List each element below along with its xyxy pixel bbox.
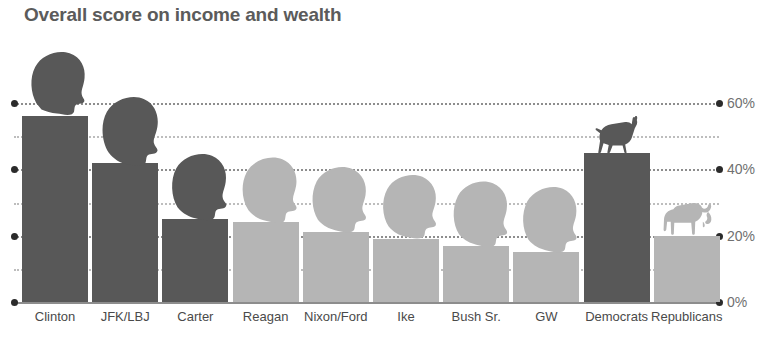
bar-democrats[interactable] — [584, 153, 650, 302]
bar-nixon-ford[interactable] — [303, 232, 369, 302]
x-axis-label-clinton: Clinton — [35, 309, 75, 324]
head-silhouette-jfk-lbj — [96, 95, 162, 167]
head-silhouette-carter — [166, 151, 232, 223]
plot-area: 0%20%40%60% ClintonJFK/LBJCarterReaganNi… — [0, 0, 775, 346]
y-axis-label: 60% — [727, 95, 755, 111]
y-tick-dot — [11, 299, 18, 306]
head-silhouette-nixon-ford — [307, 164, 373, 236]
y-tick-dot — [716, 100, 723, 107]
head-silhouette-reagan — [237, 154, 303, 226]
bar-clinton[interactable] — [22, 116, 88, 302]
y-tick-dot — [11, 233, 18, 240]
head-silhouette-bush-sr — [447, 178, 513, 250]
gridline-major — [14, 103, 719, 105]
head-silhouette-clinton — [26, 48, 92, 120]
elephant-icon — [660, 202, 718, 238]
bar-carter[interactable] — [162, 219, 228, 302]
x-axis-label-republicans: Republicans — [651, 309, 723, 324]
gridline-major — [14, 302, 719, 304]
bar-gw[interactable] — [513, 252, 579, 302]
bar-reagan[interactable] — [233, 222, 299, 302]
y-axis-label: 0% — [727, 294, 747, 310]
x-axis-label-nixon-ford: Nixon/Ford — [304, 309, 368, 324]
x-axis-label-carter: Carter — [177, 309, 213, 324]
bar-jfk-lbj[interactable] — [92, 163, 158, 302]
y-tick-dot — [11, 166, 18, 173]
bar-bush-sr[interactable] — [443, 246, 509, 302]
x-axis-label-reagan: Reagan — [243, 309, 289, 324]
chart-container: Overall score on income and wealth 0%20%… — [0, 0, 775, 346]
bar-republicans[interactable] — [654, 236, 720, 302]
donkey-icon — [594, 115, 646, 155]
head-silhouette-gw — [517, 184, 583, 256]
x-axis-label-bush-sr: Bush Sr. — [452, 309, 501, 324]
y-tick-dot — [716, 166, 723, 173]
x-axis-label-democrats: Democrats — [585, 309, 648, 324]
x-axis-label-jfk-lbj: JFK/LBJ — [101, 309, 150, 324]
head-silhouette-ike — [377, 171, 443, 243]
y-tick-dot — [11, 100, 18, 107]
x-axis-label-ike: Ike — [397, 309, 414, 324]
x-axis-label-gw: GW — [535, 309, 557, 324]
y-axis-label: 20% — [727, 228, 755, 244]
y-axis-label: 40% — [727, 161, 755, 177]
gridline-minor — [14, 136, 719, 138]
bar-ike[interactable] — [373, 239, 439, 302]
